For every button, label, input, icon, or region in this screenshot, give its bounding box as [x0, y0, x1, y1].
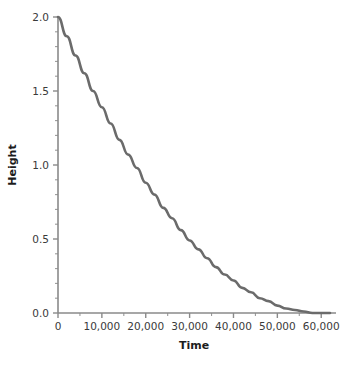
x-tick-label: 60,000 [303, 320, 340, 332]
x-tick-label: 30,000 [171, 320, 208, 332]
figure-caption [0, 354, 344, 366]
y-tick-label: 1.0 [32, 159, 49, 171]
y-tick-label: 0.0 [32, 307, 49, 319]
height-vs-time-line-chart: 0.00.51.01.52.0 010,00020,00030,00040,00… [0, 0, 344, 366]
y-axis-title: Height [6, 144, 19, 185]
x-axis-title: Time [179, 339, 209, 352]
x-tick-label: 50,000 [259, 320, 296, 332]
x-tick-label: 40,000 [215, 320, 252, 332]
x-tick-label: 10,000 [83, 320, 120, 332]
x-tick-label: 20,000 [127, 320, 164, 332]
y-tick-label: 2.0 [32, 11, 49, 23]
y-tick-label: 0.5 [32, 233, 49, 245]
chart-figure: 0.00.51.01.52.0 010,00020,00030,00040,00… [0, 0, 344, 366]
y-tick-label: 1.5 [32, 85, 49, 97]
x-tick-label: 0 [55, 320, 62, 332]
